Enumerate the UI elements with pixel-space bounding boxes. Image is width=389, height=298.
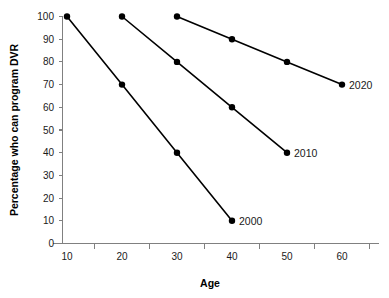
x-tick-label: 60 <box>336 251 348 262</box>
y-tick-label: 60 <box>43 102 55 113</box>
y-tick-label: 80 <box>43 56 55 67</box>
series-label-2010: 2010 <box>294 147 318 159</box>
data-point <box>119 81 125 87</box>
series-2000-line <box>67 17 232 221</box>
series-2010 <box>119 13 290 156</box>
data-point <box>64 13 70 19</box>
y-tick-label: 100 <box>37 11 54 22</box>
series-2010-line <box>122 17 287 153</box>
data-point <box>229 104 235 110</box>
y-axis-title: Percentage who can program DVR <box>8 44 20 217</box>
x-axis-ticks <box>95 244 370 249</box>
y-tick-label: 50 <box>43 125 55 136</box>
x-tick-label: 10 <box>61 251 73 262</box>
data-point <box>339 81 345 87</box>
data-point <box>174 150 180 156</box>
y-tick-label: 20 <box>43 193 55 204</box>
series-label-2000: 2000 <box>239 215 263 227</box>
x-axis-title: Age <box>200 277 220 289</box>
x-tick-label: 30 <box>171 251 183 262</box>
chart-canvas: 0 10 20 30 40 50 60 70 80 90 100 10 20 3… <box>0 0 389 298</box>
series-2020-line <box>177 17 342 85</box>
data-point <box>174 59 180 65</box>
data-point <box>284 59 290 65</box>
data-point <box>229 218 235 224</box>
y-tick-label: 40 <box>43 147 55 158</box>
series-2000 <box>64 13 235 224</box>
x-tick-label: 50 <box>281 251 293 262</box>
y-tick-label: 10 <box>43 215 55 226</box>
series-label-2020: 2020 <box>349 79 373 91</box>
data-point <box>174 13 180 19</box>
x-tick-label: 20 <box>116 251 128 262</box>
data-point <box>119 13 125 19</box>
x-tick-label: 40 <box>226 251 238 262</box>
data-point <box>284 150 290 156</box>
y-tick-label: 0 <box>48 238 54 249</box>
y-tick-label: 90 <box>43 34 55 45</box>
series-2020 <box>174 13 345 88</box>
data-point <box>229 36 235 42</box>
y-tick-label: 70 <box>43 79 55 90</box>
y-tick-label: 30 <box>43 170 55 181</box>
chart-container: 0 10 20 30 40 50 60 70 80 90 100 10 20 3… <box>0 0 389 298</box>
